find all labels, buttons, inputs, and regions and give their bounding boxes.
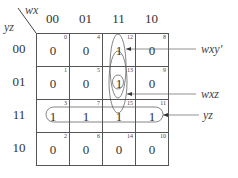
- kmap-cell: 12 1: [102, 33, 136, 67]
- cell-value: 0: [37, 142, 69, 158]
- cell-value: 1: [103, 109, 135, 125]
- cell-index: 15: [127, 100, 133, 106]
- cell-index: 8: [163, 34, 166, 40]
- column-header: 10: [135, 11, 168, 27]
- cell-value: 1: [37, 109, 69, 125]
- column-header: 00: [36, 11, 69, 27]
- cell-index: 3: [64, 100, 67, 106]
- cell-index: 10: [160, 133, 166, 139]
- group-label-yz: yz: [203, 108, 213, 123]
- kmap-cell: 0 0: [36, 33, 70, 67]
- cell-value: 1: [103, 76, 135, 92]
- kmap-cell: 4 0: [69, 33, 103, 67]
- cell-index: 12: [127, 34, 133, 40]
- group-label-wxy-prime: wxy': [201, 42, 222, 57]
- cell-value: 0: [37, 43, 69, 59]
- row-header: 10: [4, 140, 34, 156]
- cell-index: 4: [97, 34, 100, 40]
- kmap-cell: 15 1: [102, 99, 136, 133]
- kmap-cell: 6 0: [69, 132, 103, 166]
- cell-index: 6: [97, 133, 100, 139]
- cell-index: 0: [64, 34, 67, 40]
- cell-value: 0: [136, 142, 168, 158]
- kmap-cell: 9 0: [135, 66, 169, 100]
- cell-value: 0: [37, 76, 69, 92]
- kmap-cell: 14 0: [102, 132, 136, 166]
- cell-index: 9: [163, 67, 166, 73]
- cell-value: 1: [70, 109, 102, 125]
- cell-value: 0: [70, 76, 102, 92]
- row-header: 11: [4, 107, 34, 123]
- kmap-cell: 11 1: [135, 99, 169, 133]
- kmap-cell: 3 1: [36, 99, 70, 133]
- kmap-cell: 5 0: [69, 66, 103, 100]
- row-header: 00: [4, 41, 34, 57]
- column-header: 11: [102, 11, 135, 27]
- cell-index: 1: [64, 67, 67, 73]
- cell-value: 1: [136, 109, 168, 125]
- kmap-cell: 8 0: [135, 33, 169, 67]
- kmap-cell: 2 0: [36, 132, 70, 166]
- group-label-wxz: wxz: [201, 87, 219, 102]
- kmap-cell: 1 0: [36, 66, 70, 100]
- cell-value: 0: [70, 43, 102, 59]
- column-header: 01: [69, 11, 102, 27]
- cell-value: 0: [103, 142, 135, 158]
- cell-value: 0: [136, 43, 168, 59]
- cell-index: 2: [64, 133, 67, 139]
- kmap-cell: 13 1: [102, 66, 136, 100]
- kmap-cell: 10 0: [135, 132, 169, 166]
- cell-index: 7: [97, 100, 100, 106]
- cell-index: 11: [160, 100, 166, 106]
- cell-index: 14: [127, 133, 133, 139]
- cell-value: 0: [70, 142, 102, 158]
- row-variable-label: yz: [4, 20, 14, 35]
- cell-value: 1: [103, 43, 135, 59]
- cell-value: 0: [136, 76, 168, 92]
- cell-index: 13: [127, 67, 133, 73]
- row-header: 01: [4, 74, 34, 90]
- kmap-cell: 7 1: [69, 99, 103, 133]
- cell-index: 5: [97, 67, 100, 73]
